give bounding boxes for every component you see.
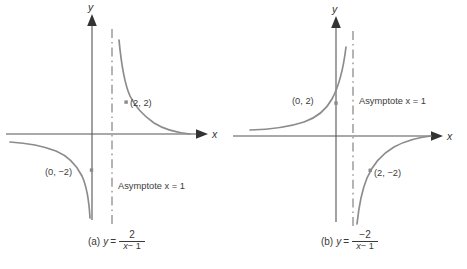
y-axis-arrowhead-b [331,16,341,28]
caption-yvar-b: y [336,236,341,247]
caption-equals-b: = [343,236,349,247]
x-axis-arrowhead-a [196,129,208,139]
curve-left-branch-a [10,142,90,218]
caption-a: (a) y = 2 x− 1 [0,231,233,252]
point-label-2-neg2-b: (2, −2) [374,168,401,178]
x-axis-arrowhead-b [431,131,443,141]
point-label-0-neg2-a: (0, −2) [45,167,72,177]
point-marker-2-neg2-b [369,169,372,172]
caption-tag-b: (b) [321,236,333,247]
caption-yvar-a: y [103,236,108,247]
panel-b-plot: x y (0, 2) (2, −2) Asymptote x = 1 [233,0,466,269]
caption-tag-a: (a) [88,236,100,247]
curve-lower-branch-b [357,136,431,224]
caption-denominator-rest-b: − 1 [361,241,374,251]
hyperbola-figure: x y (2, 2) (0, −2) Asymptote x = 1 (a) y… [0,0,467,269]
y-axis-label-a: y [87,1,94,13]
point-marker-0-neg2-a [90,168,93,171]
caption-numerator-a: 2 [126,230,138,241]
curve-upper-branch-b [250,47,346,130]
caption-b: (b) y = −2 x− 1 [233,231,466,252]
x-axis-label-a: x [211,128,218,140]
panel-a: x y (2, 2) (0, −2) Asymptote x = 1 (a) y… [0,0,233,269]
caption-denominator-rest-a: − 1 [128,241,141,251]
caption-fraction-a: 2 x− 1 [119,230,145,251]
point-label-2-2-a: (2, 2) [130,98,152,108]
x-axis-label-b: x [446,130,453,142]
asymptote-label-b: Asymptote x = 1 [359,96,426,106]
point-marker-2-2-a [124,100,127,103]
y-axis-label-b: y [331,3,338,15]
caption-numerator-b: −2 [356,230,373,241]
panel-b: x y (0, 2) (2, −2) Asymptote x = 1 (b) y… [233,0,466,269]
y-axis-arrowhead-a [87,14,97,26]
point-label-0-2-b: (0, 2) [292,96,314,106]
caption-denominator-a: x− 1 [121,242,143,252]
curve-right-branch-a [119,40,190,134]
asymptote-label-a: Asymptote x = 1 [118,181,185,191]
caption-equals-a: = [110,236,116,247]
caption-denominator-b: x− 1 [354,242,376,252]
panel-a-plot: x y (2, 2) (0, −2) Asymptote x = 1 [0,0,233,269]
point-marker-0-2-b [334,101,337,104]
caption-fraction-b: −2 x− 1 [352,230,378,251]
